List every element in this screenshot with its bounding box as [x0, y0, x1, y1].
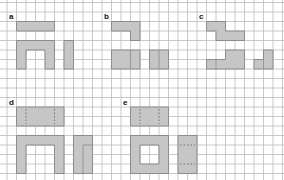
shape-top-block: [131, 107, 169, 126]
shape-block-right: [150, 50, 169, 69]
shape-top-bar: [17, 22, 55, 32]
shape-vertical-bar: [64, 41, 74, 70]
shape-l-shape: [112, 22, 141, 41]
shape-step-shape: [207, 50, 245, 69]
shape-side-block: [178, 136, 197, 174]
shape-z-shape: [207, 22, 245, 41]
panel-label-e: e: [123, 99, 127, 107]
panel-label-c: c: [199, 13, 203, 21]
shape-small-step: [254, 50, 273, 69]
panel-label-d: d: [9, 99, 14, 107]
shape-block-left: [112, 50, 141, 69]
panel-label-b: b: [104, 13, 109, 21]
shape-side-piece: [74, 136, 93, 174]
grid-diagram: [0, 0, 284, 180]
panel-a: [17, 22, 74, 70]
panel-label-a: a: [9, 13, 13, 21]
shape-top-block: [17, 107, 65, 126]
